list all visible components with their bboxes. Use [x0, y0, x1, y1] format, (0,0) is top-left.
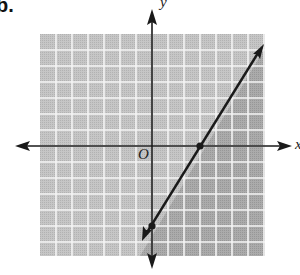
y-intercept-point — [148, 222, 155, 229]
y-axis-label: y — [160, 0, 167, 11]
coordinate-plane — [0, 0, 300, 275]
x-axis-label: x — [295, 136, 300, 153]
x-intercept-point — [196, 142, 203, 149]
origin-label: O — [138, 146, 149, 163]
